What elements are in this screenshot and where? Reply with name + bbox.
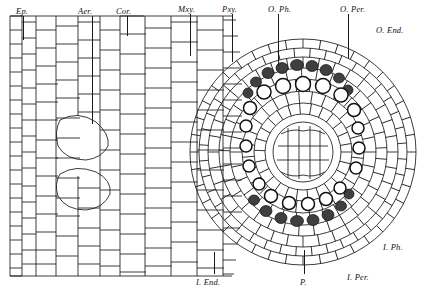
stele-region	[190, 39, 416, 265]
leader-ep	[23, 16, 24, 40]
label-o-end: O. End.	[376, 25, 404, 35]
label-o-per: O. Per.	[340, 4, 365, 14]
hypodermis-cells	[22, 16, 36, 276]
label-i-per: I. Per.	[347, 272, 369, 282]
label-pxy: Pxy.	[222, 4, 237, 14]
label-p: P.	[300, 277, 307, 287]
epidermis-cells	[10, 16, 22, 276]
label-i-ph: I. Ph.	[383, 242, 403, 252]
inner-pericycle-ring	[265, 114, 341, 190]
leader-o-ph	[278, 14, 279, 66]
leader-p	[304, 250, 305, 274]
label-mxy: Mxy.	[178, 4, 195, 14]
leader-i-end	[214, 252, 215, 274]
leader-o-per	[348, 14, 349, 58]
label-ep: Ep.	[16, 6, 28, 16]
figure-root: .cw { fill: none; stroke: #1a1a1a; strok…	[0, 0, 424, 294]
leader-mxy	[190, 14, 191, 56]
root-cross-section-diagram: .cw { fill: none; stroke: #1a1a1a; strok…	[0, 0, 424, 294]
label-o-ph: O. Ph.	[268, 4, 291, 14]
leader-pxy	[232, 14, 233, 62]
metaxylem-vessels	[240, 77, 365, 175]
pith-cells	[273, 122, 333, 182]
label-i-end: I. End.	[196, 277, 220, 287]
cortex-region	[10, 16, 242, 276]
leader-cor	[127, 16, 128, 36]
aerenchyma-region	[36, 16, 120, 276]
radial-cell-walls	[190, 39, 416, 265]
label-cor: Cor.	[116, 6, 131, 16]
label-aer: Aer.	[78, 6, 92, 16]
leader-aer	[92, 16, 93, 124]
